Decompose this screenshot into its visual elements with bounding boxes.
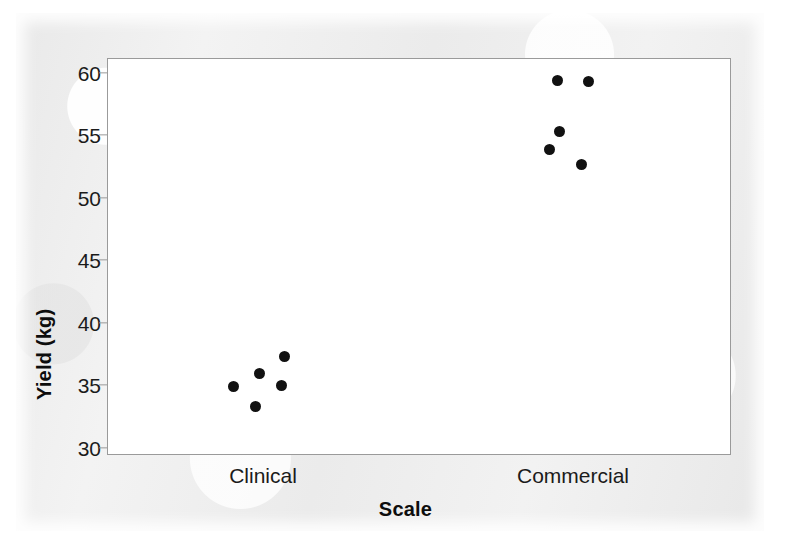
y-axis-tick-marks	[99, 0, 107, 560]
y-tick-label-50: 50	[55, 188, 101, 209]
x-axis-title-text: Scale	[379, 498, 432, 521]
y-tick-label-35: 35	[55, 375, 101, 396]
y-tick-mark-60	[99, 72, 107, 73]
y-tick-mark-55	[99, 134, 107, 135]
y-axis-tick-labels: 60 55 50 45 40 35 30	[52, 0, 101, 560]
y-tick-mark-30	[99, 447, 107, 448]
x-tick-label-clinical: Clinical	[229, 464, 297, 488]
y-tick-label-55: 55	[55, 125, 101, 146]
y-tick-mark-40	[99, 322, 107, 323]
y-tick-mark-50	[99, 197, 107, 198]
y-tick-label-45: 45	[55, 250, 101, 271]
y-tick-mark-45	[99, 259, 107, 260]
y-tick-label-40: 40	[55, 313, 101, 334]
y-axis-title: Yield (kg)	[33, 100, 56, 400]
x-tick-label-commercial: Commercial	[517, 464, 629, 488]
figure-root: 60 55 50 45 40 35 30 Yield (kg) Clinical…	[0, 0, 787, 560]
x-axis-title: Scale	[0, 498, 787, 521]
plot-area-frame	[107, 58, 731, 455]
y-tick-mark-35	[99, 384, 107, 385]
y-tick-label-30: 30	[55, 438, 101, 459]
y-tick-label-60: 60	[55, 63, 101, 84]
